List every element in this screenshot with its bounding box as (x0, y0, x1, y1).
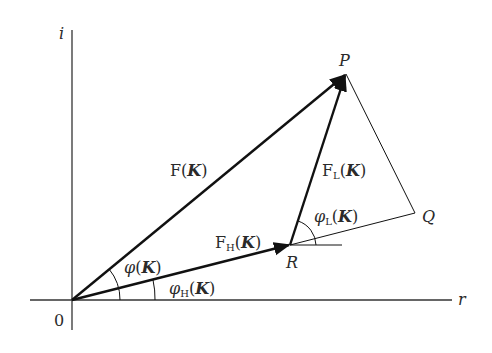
point-label-P: P (338, 51, 350, 70)
axis-label-r: r (458, 290, 467, 309)
origin-label: 0 (54, 311, 64, 330)
point-label-Q: Q (422, 207, 435, 226)
arc-phiH (153, 280, 155, 300)
label-phiL: φL(K) (314, 207, 358, 227)
label-phiH: φH(K) (169, 279, 215, 299)
label-FH: FH(K) (215, 233, 261, 253)
label-phi: φ(K) (124, 258, 162, 277)
arc-phi (109, 269, 120, 300)
point-label-R: R (285, 253, 298, 272)
label-F: F(K) (170, 161, 208, 180)
label-FL: FL(K) (322, 161, 366, 181)
vector-diagram: i r 0 P Q R F(K) FH(K) FL(K) φ(K) φH(K) … (0, 0, 492, 353)
axis-label-i: i (59, 24, 64, 43)
segment-QP (346, 74, 415, 213)
